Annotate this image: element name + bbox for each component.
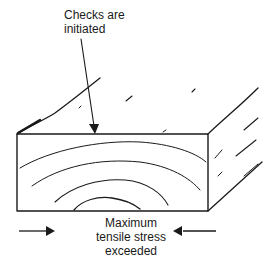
block-top-right-edge	[208, 88, 258, 134]
pointer-arrow-line	[81, 39, 94, 126]
block-front-face	[17, 134, 208, 211]
grain-mark	[244, 164, 258, 176]
growth-ring-2	[32, 161, 200, 190]
pointer-arrowhead-icon	[89, 124, 99, 134]
label-line: tensile stress	[70, 230, 192, 244]
block-edge-shadow	[18, 120, 40, 133]
grain-mark	[218, 172, 222, 176]
max-tensile-stress-label: Maximum tensile stress exceeded	[70, 216, 192, 258]
grain-mark	[126, 96, 132, 101]
label-line: initiated	[64, 22, 125, 36]
growth-ring-4	[74, 198, 140, 211]
grain-mark	[215, 150, 222, 158]
arrow-right-icon	[46, 226, 55, 236]
growth-ring-1	[20, 142, 206, 168]
grain-mark	[192, 89, 195, 92]
checks-initiated-label: Checks are initiated	[64, 8, 125, 36]
grain-mark	[236, 140, 256, 156]
grain-mark	[163, 130, 166, 132]
growth-ring-3	[55, 180, 168, 205]
block-right-bottom-edge	[208, 162, 262, 211]
grain-mark	[244, 118, 258, 130]
grain-mark	[79, 106, 81, 108]
label-line: Checks are	[64, 8, 125, 22]
label-line: Maximum	[70, 216, 192, 230]
label-line: exceeded	[70, 244, 192, 258]
